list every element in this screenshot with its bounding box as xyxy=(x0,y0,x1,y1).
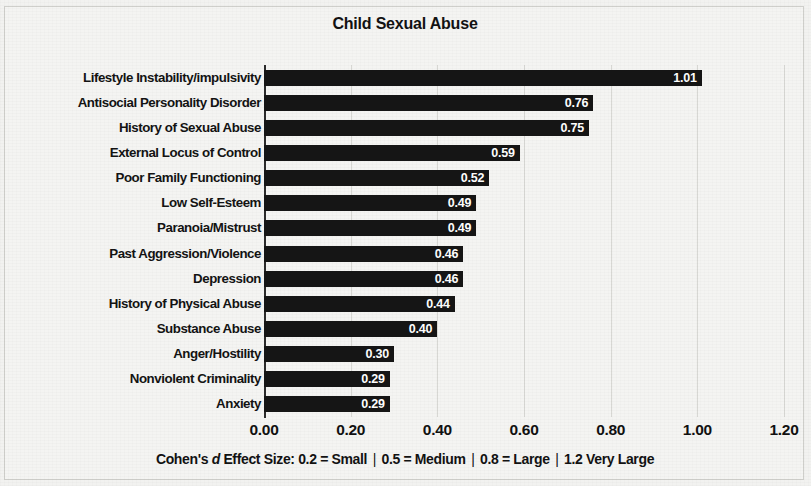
bar[interactable]: 0.59 xyxy=(264,145,520,161)
category-label: Poor Family Functioning xyxy=(11,170,261,186)
category-label: History of Physical Abuse xyxy=(11,296,261,312)
footer-segment-medium: 0.5 = Medium xyxy=(381,451,465,467)
footer-separator: | xyxy=(550,451,564,467)
gridline xyxy=(351,65,352,417)
gridline xyxy=(697,65,698,417)
gridline xyxy=(524,65,525,417)
bar[interactable]: 1.01 xyxy=(264,70,702,86)
bar[interactable]: 0.29 xyxy=(264,396,390,412)
bar[interactable]: 0.75 xyxy=(264,120,589,136)
category-label: External Locus of Control xyxy=(11,145,261,161)
footer-separator: | xyxy=(367,451,381,467)
category-label: Substance Abuse xyxy=(11,321,261,337)
bar[interactable]: 0.46 xyxy=(264,271,463,287)
bar-row[interactable]: 0.76 xyxy=(264,95,784,111)
bar[interactable]: 0.49 xyxy=(264,220,476,236)
bar-row[interactable]: 0.46 xyxy=(264,246,784,262)
bar-row[interactable]: 0.29 xyxy=(264,371,784,387)
x-tick-label: 0.00 xyxy=(224,421,304,439)
bar[interactable]: 0.49 xyxy=(264,195,476,211)
category-label: Nonviolent Criminality xyxy=(11,371,261,387)
category-label: Antisocial Personality Disorder xyxy=(11,95,261,111)
bar-row[interactable]: 1.01 xyxy=(264,70,784,86)
category-axis-labels: Lifestyle Instability/impulsivityAntisoc… xyxy=(8,65,261,417)
bar-row[interactable]: 0.59 xyxy=(264,145,784,161)
bar-value-label: 0.46 xyxy=(435,247,464,261)
bar-value-label: 0.49 xyxy=(448,196,477,210)
cohens-d-symbol: d xyxy=(212,451,220,467)
bar-value-label: 0.59 xyxy=(491,146,520,160)
bar-value-label: 0.40 xyxy=(409,322,438,336)
x-tick-label: 0.80 xyxy=(571,421,651,439)
bar-row[interactable]: 0.52 xyxy=(264,170,784,186)
bar-row[interactable]: 0.75 xyxy=(264,120,784,136)
bar-row[interactable]: 0.44 xyxy=(264,296,784,312)
bar-value-label: 0.29 xyxy=(361,397,390,411)
bar-value-label: 1.01 xyxy=(673,71,702,85)
category-label: Depression xyxy=(11,271,261,287)
gridline xyxy=(437,65,438,417)
bar[interactable]: 0.76 xyxy=(264,95,593,111)
x-tick-label: 1.00 xyxy=(657,421,737,439)
footer-segment-large: 0.8 = Large xyxy=(480,451,550,467)
category-label: Low Self-Esteem xyxy=(11,195,261,211)
effect-size-legend-caption: Cohen's d Effect Size: 0.2 = Small | 0.5… xyxy=(5,451,805,467)
bar-row[interactable]: 0.30 xyxy=(264,346,784,362)
bar-row[interactable]: 0.40 xyxy=(264,321,784,337)
bar[interactable]: 0.44 xyxy=(264,296,455,312)
footer-segment-very-large: 1.2 Very Large xyxy=(564,451,654,467)
category-label: Lifestyle Instability/impulsivity xyxy=(11,70,261,86)
plot-area: 1.010.760.750.590.520.490.490.460.460.44… xyxy=(264,65,784,417)
gridline xyxy=(784,65,785,417)
bar-row[interactable]: 0.49 xyxy=(264,195,784,211)
x-tick-label: 0.40 xyxy=(397,421,477,439)
gridline xyxy=(611,65,612,417)
bar-value-label: 0.29 xyxy=(361,372,390,386)
bar-value-label: 0.44 xyxy=(426,297,455,311)
bar-value-label: 0.52 xyxy=(461,171,490,185)
category-label: Anger/Hostility xyxy=(11,346,261,362)
bar[interactable]: 0.30 xyxy=(264,346,394,362)
bar[interactable]: 0.40 xyxy=(264,321,437,337)
footer-segment-small: Effect Size: 0.2 = Small xyxy=(220,451,367,467)
category-label: History of Sexual Abuse xyxy=(11,120,261,136)
bar-row[interactable]: 0.29 xyxy=(264,396,784,412)
footer-prefix: Cohen's xyxy=(156,451,212,467)
category-label: Anxiety xyxy=(11,396,261,412)
x-axis-tick-labels: 0.000.200.400.600.801.001.20 xyxy=(264,421,784,445)
footer-separator: | xyxy=(466,451,480,467)
category-label: Paranoia/Mistrust xyxy=(11,220,261,236)
x-tick-label: 0.60 xyxy=(484,421,564,439)
bar-value-label: 0.49 xyxy=(448,221,477,235)
bar-value-label: 0.75 xyxy=(560,121,589,135)
bar[interactable]: 0.46 xyxy=(264,246,463,262)
bar-row[interactable]: 0.49 xyxy=(264,220,784,236)
bar-row[interactable]: 0.46 xyxy=(264,271,784,287)
bar[interactable]: 0.52 xyxy=(264,170,489,186)
x-tick-label: 1.20 xyxy=(744,421,811,439)
category-label: Past Aggression/Violence xyxy=(11,246,261,262)
chart-figure: Child Sexual Abuse Lifestyle Instability… xyxy=(4,6,804,480)
bar-value-label: 0.46 xyxy=(435,272,464,286)
bar-value-label: 0.30 xyxy=(365,347,394,361)
bar-value-label: 0.76 xyxy=(565,96,594,110)
bar[interactable]: 0.29 xyxy=(264,371,390,387)
x-tick-label: 0.20 xyxy=(311,421,391,439)
chart-title: Child Sexual Abuse xyxy=(5,15,805,33)
